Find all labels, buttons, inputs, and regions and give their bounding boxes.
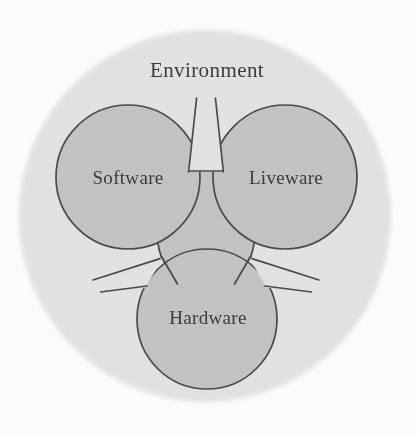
software-label: Software	[93, 167, 164, 188]
environment-label: Environment	[150, 58, 264, 82]
hardware-label: Hardware	[169, 307, 246, 328]
liveware-label: Liveware	[249, 167, 323, 188]
diagram-page: Environment Software Liveware Hardware	[0, 0, 417, 434]
system-diagram: Environment Software Liveware Hardware	[0, 0, 417, 434]
